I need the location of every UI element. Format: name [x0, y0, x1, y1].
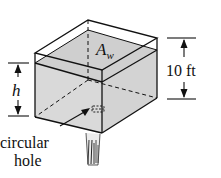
outflow-jet: [86, 133, 100, 165]
hole-label-line1: circular: [0, 134, 50, 151]
tank-diagram: Aw 10 ft h circular hole: [0, 0, 221, 178]
water-height-label: h: [12, 81, 21, 100]
tank-height-label: 10 ft: [166, 62, 196, 79]
hole-label-line2: hole: [14, 152, 42, 169]
